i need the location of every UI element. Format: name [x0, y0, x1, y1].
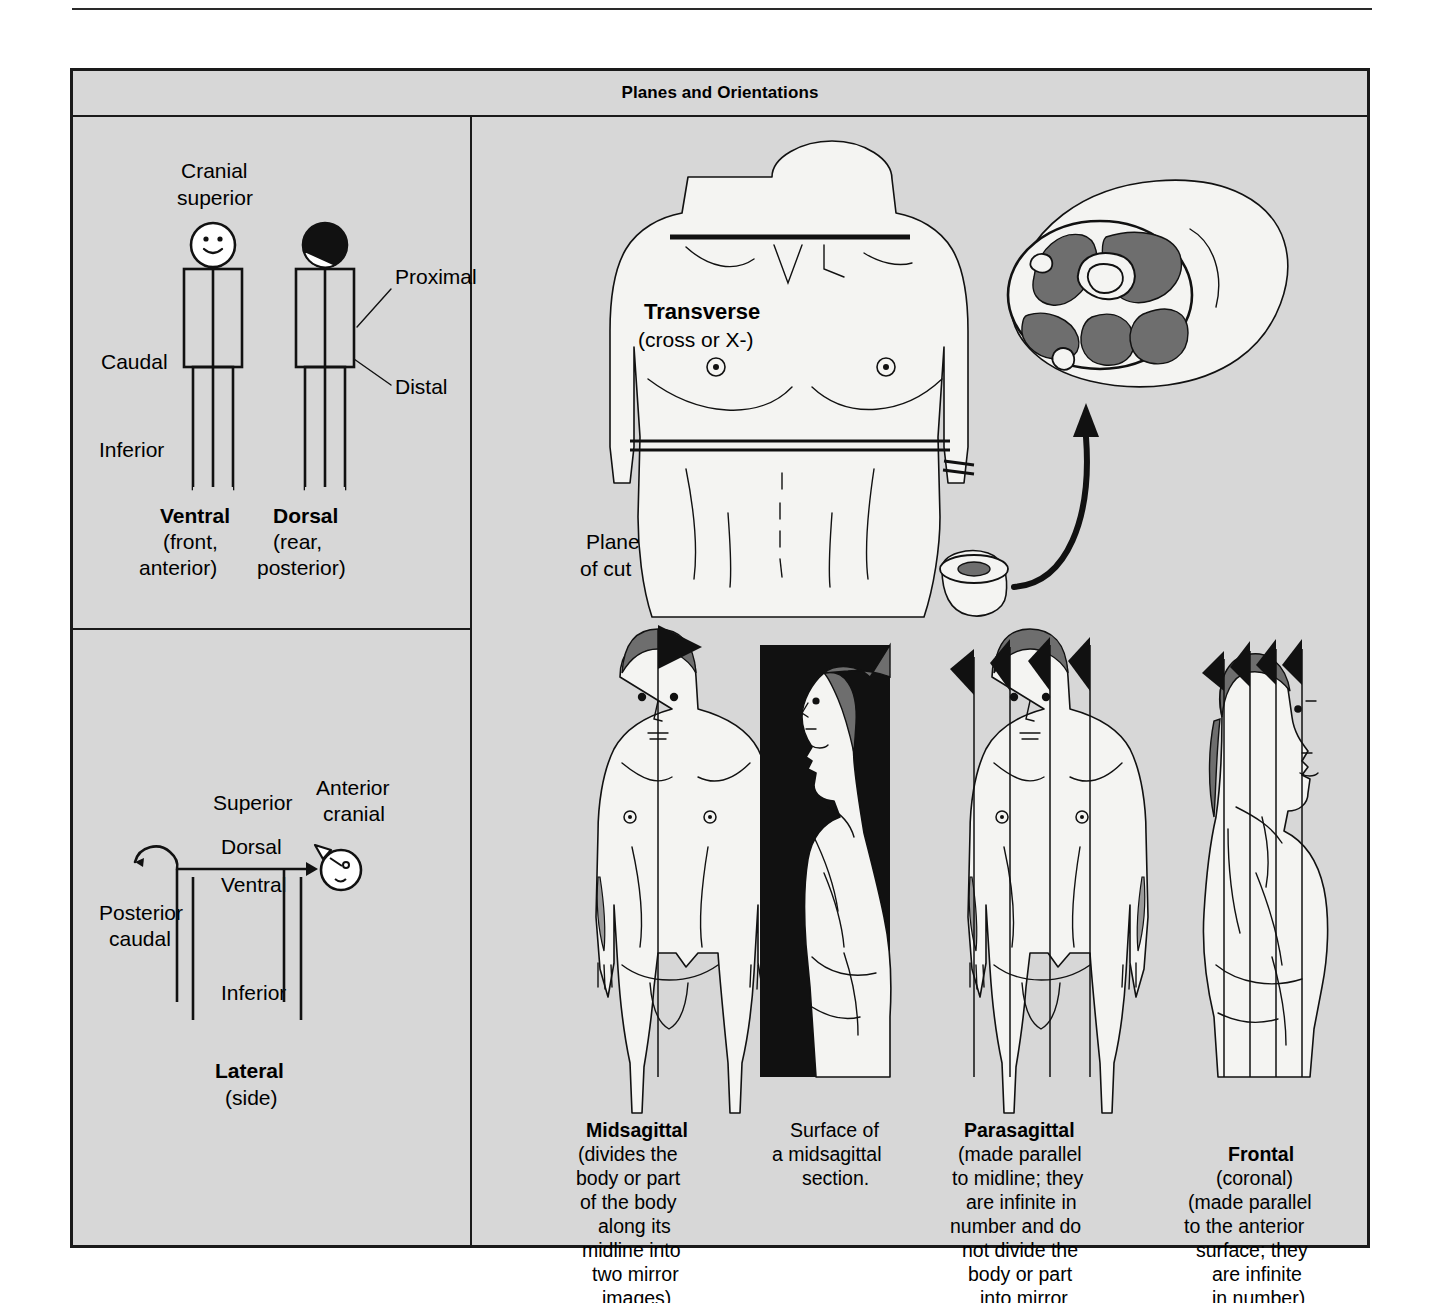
- midsagittal-caption-1: body or part: [576, 1167, 681, 1189]
- page-header-rule: [72, 8, 1372, 10]
- label-cranial-lateral: cranial: [323, 802, 385, 825]
- midsagittal-surface-caption-0: Surface of: [790, 1119, 879, 1141]
- midsagittal-caption-6: images): [602, 1287, 671, 1303]
- plane-of-cut-line2: of cut: [580, 557, 632, 580]
- ventral-stick-figure: [184, 223, 242, 489]
- label-inferior: Inferior: [99, 438, 164, 461]
- dorsal-sub2: posterior): [257, 556, 346, 579]
- midsagittal-surface-caption-1: a midsagittal: [772, 1143, 881, 1165]
- ventral-title: Ventral: [160, 504, 230, 527]
- midsagittal-surface-caption-2: section.: [802, 1167, 869, 1189]
- parasagittal-figure: [950, 629, 1148, 1113]
- midsagittal-surface-figure: [760, 645, 891, 1077]
- parasagittal-caption-0: (made parallel: [958, 1143, 1082, 1165]
- dorsal-stick-figure: [296, 223, 354, 489]
- frontal-caption-3: surface; they: [1196, 1239, 1308, 1261]
- right-column: Transverse (cross or X-) Plane of cut: [472, 117, 1367, 1245]
- parasagittal-title: Parasagittal: [964, 1119, 1075, 1141]
- figure-frame: Planes and Orientations Cranial superior…: [70, 68, 1370, 1248]
- left-column: Cranial superior Caudal Inferior: [73, 117, 472, 1245]
- dorsal-sub1: (rear,: [273, 530, 322, 553]
- ventral-sub1: (front,: [163, 530, 218, 553]
- transverse-figure: Transverse (cross or X-): [610, 141, 1288, 617]
- ventral-dorsal-panel: Cranial superior Caudal Inferior: [73, 117, 470, 630]
- arm-stump-disc: [940, 551, 1008, 616]
- lateral-title: Lateral: [215, 1059, 284, 1082]
- dorsal-title: Dorsal: [273, 504, 338, 527]
- frontal-figure: [1202, 639, 1328, 1077]
- label-ventral-lateral: Ventral: [221, 873, 286, 896]
- midsagittal-caption-3: along its: [598, 1215, 671, 1237]
- label-inferior-lateral: Inferior: [221, 981, 286, 1004]
- midsagittal-caption-4: midline into: [582, 1239, 681, 1261]
- frontal-caption-4: are infinite: [1212, 1263, 1302, 1285]
- label-superior: superior: [177, 186, 253, 209]
- lateral-panel: Superior Anterior cranial Dorsal Ventral…: [73, 630, 470, 1245]
- page-title: Planes and Orientations: [622, 83, 819, 103]
- distal-leader-line: [354, 359, 391, 385]
- figure-header: Planes and Orientations: [73, 71, 1367, 117]
- label-caudal: Caudal: [101, 350, 168, 373]
- parasagittal-caption-5: body or part: [968, 1263, 1073, 1285]
- label-distal: Distal: [395, 375, 448, 398]
- transverse-title: Transverse: [644, 299, 760, 324]
- frontal-caption-2: to the anterior: [1184, 1215, 1305, 1237]
- frontal-caption-0: (coronal): [1216, 1167, 1293, 1189]
- lateral-subtitle: (side): [225, 1086, 278, 1109]
- transverse-subtitle: (cross or X-): [638, 328, 754, 351]
- panel-body: Cranial superior Caudal Inferior: [73, 117, 1367, 1245]
- label-cranial: Cranial: [181, 159, 248, 182]
- ventral-sub2: anterior): [139, 556, 217, 579]
- parasagittal-caption-6: into mirror: [980, 1287, 1068, 1303]
- plane-of-cut-line1: Plane: [586, 530, 640, 553]
- label-proximal: Proximal: [395, 265, 477, 288]
- frontal-title: Frontal: [1228, 1143, 1294, 1165]
- transverse-arrow: [1014, 437, 1087, 587]
- midsagittal-title: Midsagittal: [586, 1119, 688, 1141]
- parasagittal-caption-2: are infinite in: [966, 1191, 1077, 1213]
- frontal-caption-1: (made parallel: [1188, 1191, 1312, 1213]
- label-anterior: Anterior: [316, 776, 390, 799]
- label-superior-lateral: Superior: [213, 791, 292, 814]
- planes-diagram: Transverse (cross or X-) Plane of cut: [472, 117, 1367, 1247]
- midsagittal-caption-0: (divides the: [578, 1143, 678, 1165]
- midsagittal-figure: [596, 625, 776, 1113]
- label-dorsal-lateral: Dorsal: [221, 835, 282, 858]
- label-caudal-lateral: caudal: [109, 927, 171, 950]
- midsagittal-caption-5: two mirror: [592, 1263, 679, 1285]
- midsagittal-caption-2: of the body: [580, 1191, 677, 1213]
- parasagittal-caption-3: number and do: [950, 1215, 1081, 1237]
- lateral-diagram: Superior Anterior cranial Dorsal Ventral…: [73, 630, 472, 1247]
- frontal-caption-5: in number): [1212, 1287, 1305, 1303]
- label-posterior: Posterior: [99, 901, 183, 924]
- proximal-leader-line: [357, 289, 391, 327]
- parasagittal-caption-4: not divide the: [962, 1239, 1078, 1261]
- parasagittal-caption-1: to midline; they: [952, 1167, 1083, 1189]
- ventral-dorsal-diagram: Cranial superior Caudal Inferior: [73, 117, 472, 630]
- limb-cross-section-inset: [1008, 180, 1288, 387]
